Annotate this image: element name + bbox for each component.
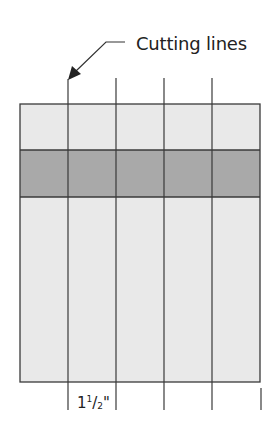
dim-unit: " xyxy=(103,394,110,412)
dim-whole: 1 xyxy=(77,394,87,412)
strip-width-label: 11/2" xyxy=(77,394,110,412)
strip-cutting-diagram xyxy=(0,0,275,437)
callout-label: Cutting lines xyxy=(136,33,247,54)
top-light-band xyxy=(20,104,260,150)
arrow-pointer-icon xyxy=(68,42,125,80)
bottom-light-band xyxy=(20,197,260,382)
middle-dark-band xyxy=(20,150,260,197)
